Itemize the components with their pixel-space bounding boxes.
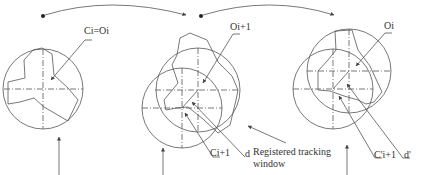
label-oi1: Oi+1 <box>230 21 251 32</box>
object-shape <box>318 30 382 104</box>
label-ci1-prime: C'i+1 <box>374 149 396 160</box>
label-window-2: window <box>253 158 286 169</box>
label-d: d <box>245 148 250 159</box>
label-oi: Oi <box>384 20 394 31</box>
label-window-1: Registered tracking <box>253 146 331 157</box>
label-ci1: Ci+1 <box>210 147 230 158</box>
frame-1: Ci=Oi <box>3 25 109 175</box>
tracking-window-diagram: Ci=Oi Oi+1 Ci+1 d Registered tracking wi… <box>0 0 434 175</box>
label-ci-oi: Ci=Oi <box>84 25 109 36</box>
start-dot-1 <box>41 14 45 18</box>
label-d-prime: d' <box>404 149 411 160</box>
arc-arrow-1 <box>45 5 186 15</box>
frame-2: Oi+1 Ci+1 d Registered tracking window <box>142 21 331 175</box>
arc-arrow-2 <box>203 5 334 15</box>
start-dot-2 <box>199 14 203 18</box>
transition-arrows <box>41 5 334 18</box>
